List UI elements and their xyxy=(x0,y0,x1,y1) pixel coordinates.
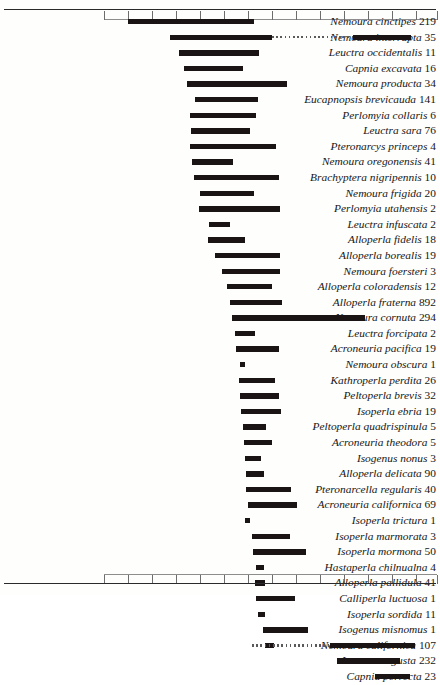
bar-area xyxy=(0,248,440,264)
range-bar xyxy=(192,159,233,164)
chart-row: Alloperla borealis 19 xyxy=(0,248,440,264)
bar-area xyxy=(0,357,440,373)
range-bar xyxy=(235,331,255,336)
chart-row: Capnia porrecta 23 xyxy=(0,669,440,685)
range-bar xyxy=(256,565,264,570)
bar-area xyxy=(0,310,440,326)
chart-row: Nemoura obscura 1 xyxy=(0,357,440,373)
range-bar xyxy=(375,674,410,679)
chart-row: Isoperla ebria 19 xyxy=(0,404,440,420)
chart-row: Acroneuria theodora 5 xyxy=(0,435,440,451)
range-bar xyxy=(256,596,295,601)
bar-area xyxy=(0,669,440,685)
range-bar xyxy=(184,66,243,71)
bar-area xyxy=(0,638,440,654)
range-bar xyxy=(239,378,275,383)
bar-area xyxy=(0,279,440,295)
chart-row: Nemoura interrupta 35 xyxy=(0,30,440,46)
bar-area xyxy=(0,435,440,451)
bar-area xyxy=(0,76,440,92)
chart-row: Alloperla coloradensis 12 xyxy=(0,279,440,295)
bar-area xyxy=(0,123,440,139)
range-bar xyxy=(252,534,290,539)
bar-area xyxy=(0,139,440,155)
range-bar xyxy=(194,175,279,180)
range-bar xyxy=(170,35,272,40)
bottom-axis-rule xyxy=(4,583,436,584)
bottom-tick-rail xyxy=(0,574,440,583)
bar-area xyxy=(0,341,440,357)
range-bar xyxy=(253,549,306,554)
range-bar-dashed xyxy=(252,644,330,646)
range-bar xyxy=(195,97,258,102)
range-bar xyxy=(330,643,415,648)
chart-row: Peltoperla quadrispinula 5 xyxy=(0,419,440,435)
range-bar xyxy=(179,50,259,55)
bar-area xyxy=(0,607,440,623)
chart-row: Calliperla luctuosa 1 xyxy=(0,591,440,607)
chart-row: Brachyptera nigripennis 10 xyxy=(0,170,440,186)
range-bar xyxy=(241,409,281,414)
bar-area xyxy=(0,30,440,46)
chart-row: Alloperla fidelis 18 xyxy=(0,232,440,248)
range-bar xyxy=(240,393,279,398)
range-bar xyxy=(246,487,291,492)
bar-area xyxy=(0,45,440,61)
range-bar xyxy=(230,300,282,305)
range-bar xyxy=(227,284,272,289)
axis-tick xyxy=(437,575,438,584)
top-axis-labels xyxy=(0,0,440,8)
chart-row: Acroneuria californica 69 xyxy=(0,497,440,513)
top-axis-rule xyxy=(4,9,436,10)
range-bar xyxy=(222,269,280,274)
chart-row: Nemoura cornuta 294 xyxy=(0,310,440,326)
range-bar xyxy=(246,471,264,476)
range-bar xyxy=(199,206,280,211)
bar-area xyxy=(0,388,440,404)
chart-row: Leuctra forcipata 2 xyxy=(0,326,440,342)
bar-area xyxy=(0,529,440,545)
range-bar xyxy=(209,222,230,227)
range-bar xyxy=(232,315,365,320)
chart-row: Alloperla fraterna 892 xyxy=(0,295,440,311)
bottom-tick-baseline xyxy=(104,574,437,575)
range-bar xyxy=(200,191,254,196)
chart-row: Isogenus nonus 3 xyxy=(0,451,440,467)
bar-area xyxy=(0,451,440,467)
chart-row: Nemoura frigida 20 xyxy=(0,186,440,202)
bar-area xyxy=(0,419,440,435)
range-bar xyxy=(353,35,411,40)
chart-row: Perlomyia utahensis 2 xyxy=(0,201,440,217)
range-bar xyxy=(190,144,276,149)
chart-row: Perlomyia collaris 6 xyxy=(0,108,440,124)
chart-row: Isoperla marmorata 3 xyxy=(0,529,440,545)
bar-area xyxy=(0,544,440,560)
chart-row: Nemoura californica 107 xyxy=(0,638,440,654)
range-bar xyxy=(236,346,279,351)
range-bar xyxy=(240,362,245,367)
chart-row: Capnia excavata 16 xyxy=(0,61,440,77)
bar-area xyxy=(0,232,440,248)
bar-area xyxy=(0,217,440,233)
bar-area xyxy=(0,170,440,186)
chart-row: Isoperla trictura 1 xyxy=(0,513,440,529)
chart-row: Leuctra augusta 232 xyxy=(0,653,440,669)
bar-area xyxy=(0,513,440,529)
bar-area xyxy=(0,466,440,482)
bar-area xyxy=(0,186,440,202)
chart-row: Kathroperla perdita 26 xyxy=(0,373,440,389)
chart-row: Peltoperla brevis 32 xyxy=(0,388,440,404)
range-bar xyxy=(248,502,297,507)
range-bar xyxy=(244,440,272,445)
bar-area xyxy=(0,92,440,108)
bar-area xyxy=(0,622,440,638)
chart-row: Nemoura oregonensis 41 xyxy=(0,154,440,170)
chart-row: Pteronarcella regularis 40 xyxy=(0,482,440,498)
range-bar xyxy=(243,424,266,429)
bar-area xyxy=(0,154,440,170)
bar-area xyxy=(0,201,440,217)
chart-row: Leuctra occidentalis 11 xyxy=(0,45,440,61)
bar-area xyxy=(0,497,440,513)
chart-row: Isogenus misnomus 1 xyxy=(0,622,440,638)
